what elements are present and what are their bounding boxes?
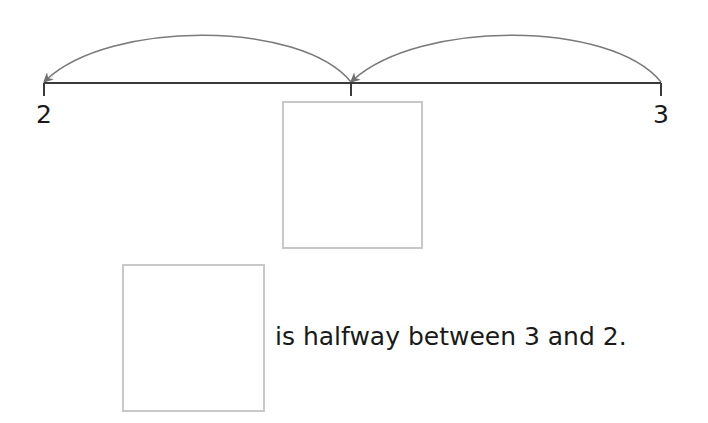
label-end: 3 [653, 102, 669, 127]
arc-midpoint-to-2 [46, 35, 351, 82]
arc-3-to-midpoint [353, 35, 661, 82]
answer-box-sentence[interactable] [122, 264, 265, 412]
answer-box-midpoint[interactable] [282, 101, 423, 249]
sentence-text: is halfway between 3 and 2. [275, 322, 627, 351]
label-start: 2 [36, 102, 52, 127]
